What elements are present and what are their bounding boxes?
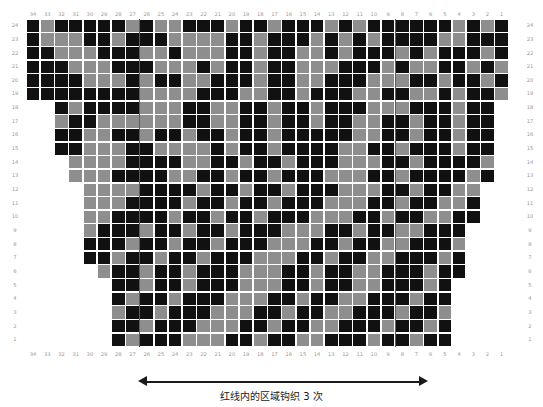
grid-cell[interactable] bbox=[382, 47, 395, 59]
grid-cell[interactable] bbox=[453, 184, 466, 196]
grid-cell[interactable] bbox=[197, 74, 210, 86]
grid-cell[interactable] bbox=[282, 197, 295, 209]
grid-cell[interactable] bbox=[126, 279, 139, 291]
grid-cell[interactable] bbox=[282, 320, 295, 332]
grid-cell[interactable] bbox=[382, 61, 395, 73]
grid-cell[interactable] bbox=[339, 224, 352, 236]
grid-cell[interactable] bbox=[311, 279, 324, 291]
grid-cell[interactable] bbox=[410, 252, 423, 264]
grid-cell[interactable] bbox=[254, 306, 267, 318]
grid-cell[interactable] bbox=[339, 33, 352, 45]
grid-cell[interactable] bbox=[169, 115, 182, 127]
grid-cell[interactable] bbox=[311, 156, 324, 168]
grid-cell[interactable] bbox=[240, 170, 253, 182]
grid-cell[interactable] bbox=[396, 61, 409, 73]
grid-cell[interactable] bbox=[211, 74, 224, 86]
grid-cell[interactable] bbox=[211, 211, 224, 223]
grid-cell[interactable] bbox=[211, 306, 224, 318]
grid-cell[interactable] bbox=[211, 334, 224, 346]
grid-cell[interactable] bbox=[98, 33, 111, 45]
grid-cell[interactable] bbox=[481, 143, 494, 155]
grid-cell[interactable] bbox=[254, 20, 267, 32]
grid-cell[interactable] bbox=[69, 47, 82, 59]
grid-cell[interactable] bbox=[311, 47, 324, 59]
grid-cell[interactable] bbox=[98, 252, 111, 264]
grid-cell[interactable] bbox=[226, 102, 239, 114]
grid-cell[interactable] bbox=[169, 170, 182, 182]
grid-cell[interactable] bbox=[155, 293, 168, 305]
grid-cell[interactable] bbox=[183, 143, 196, 155]
grid-cell[interactable] bbox=[240, 320, 253, 332]
grid-cell[interactable] bbox=[297, 33, 310, 45]
grid-cell[interactable] bbox=[254, 184, 267, 196]
grid-cell[interactable] bbox=[183, 211, 196, 223]
grid-cell[interactable] bbox=[183, 129, 196, 141]
grid-cell[interactable] bbox=[311, 197, 324, 209]
grid-cell[interactable] bbox=[240, 47, 253, 59]
grid-cell[interactable] bbox=[268, 47, 281, 59]
grid-cell[interactable] bbox=[467, 129, 480, 141]
grid-cell[interactable] bbox=[112, 74, 125, 86]
grid-cell[interactable] bbox=[240, 33, 253, 45]
grid-cell[interactable] bbox=[254, 265, 267, 277]
grid-cell[interactable] bbox=[268, 238, 281, 250]
grid-cell[interactable] bbox=[396, 47, 409, 59]
grid-cell[interactable] bbox=[453, 197, 466, 209]
grid-cell[interactable] bbox=[453, 224, 466, 236]
grid-cell[interactable] bbox=[211, 293, 224, 305]
grid-cell[interactable] bbox=[155, 224, 168, 236]
grid-cell[interactable] bbox=[155, 102, 168, 114]
grid-cell[interactable] bbox=[410, 33, 423, 45]
grid-cell[interactable] bbox=[297, 47, 310, 59]
grid-cell[interactable] bbox=[325, 224, 338, 236]
grid-cell[interactable] bbox=[297, 20, 310, 32]
grid-cell[interactable] bbox=[84, 170, 97, 182]
grid-cell[interactable] bbox=[169, 88, 182, 100]
grid-cell[interactable] bbox=[439, 20, 452, 32]
grid-cell[interactable] bbox=[368, 184, 381, 196]
grid-cell[interactable] bbox=[126, 252, 139, 264]
grid-cell[interactable] bbox=[396, 265, 409, 277]
grid-cell[interactable] bbox=[240, 197, 253, 209]
grid-cell[interactable] bbox=[226, 279, 239, 291]
grid-cell[interactable] bbox=[382, 33, 395, 45]
grid-cell[interactable] bbox=[183, 224, 196, 236]
grid-cell[interactable] bbox=[410, 211, 423, 223]
grid-cell[interactable] bbox=[325, 33, 338, 45]
grid-cell[interactable] bbox=[268, 33, 281, 45]
grid-cell[interactable] bbox=[84, 33, 97, 45]
grid-cell[interactable] bbox=[169, 211, 182, 223]
grid-cell[interactable] bbox=[240, 184, 253, 196]
grid-cell[interactable] bbox=[481, 156, 494, 168]
grid-cell[interactable] bbox=[424, 143, 437, 155]
grid-cell[interactable] bbox=[240, 129, 253, 141]
grid-cell[interactable] bbox=[183, 279, 196, 291]
grid-cell[interactable] bbox=[325, 238, 338, 250]
grid-cell[interactable] bbox=[84, 129, 97, 141]
grid-cell[interactable] bbox=[311, 334, 324, 346]
grid-cell[interactable] bbox=[368, 265, 381, 277]
grid-cell[interactable] bbox=[84, 252, 97, 264]
grid-cell[interactable] bbox=[311, 320, 324, 332]
grid-cell[interactable] bbox=[55, 47, 68, 59]
grid-cell[interactable] bbox=[339, 170, 352, 182]
grid-cell[interactable] bbox=[353, 211, 366, 223]
grid-cell[interactable] bbox=[311, 88, 324, 100]
grid-cell[interactable] bbox=[98, 238, 111, 250]
grid-cell[interactable] bbox=[467, 170, 480, 182]
grid-cell[interactable] bbox=[396, 74, 409, 86]
grid-cell[interactable] bbox=[325, 306, 338, 318]
grid-cell[interactable] bbox=[155, 197, 168, 209]
grid-cell[interactable] bbox=[453, 61, 466, 73]
grid-cell[interactable] bbox=[339, 279, 352, 291]
grid-cell[interactable] bbox=[467, 102, 480, 114]
grid-cell[interactable] bbox=[155, 170, 168, 182]
grid-cell[interactable] bbox=[41, 20, 54, 32]
grid-cell[interactable] bbox=[84, 156, 97, 168]
grid-cell[interactable] bbox=[254, 143, 267, 155]
grid-cell[interactable] bbox=[211, 224, 224, 236]
grid-cell[interactable] bbox=[126, 47, 139, 59]
grid-cell[interactable] bbox=[140, 184, 153, 196]
grid-cell[interactable] bbox=[282, 224, 295, 236]
grid-cell[interactable] bbox=[424, 102, 437, 114]
